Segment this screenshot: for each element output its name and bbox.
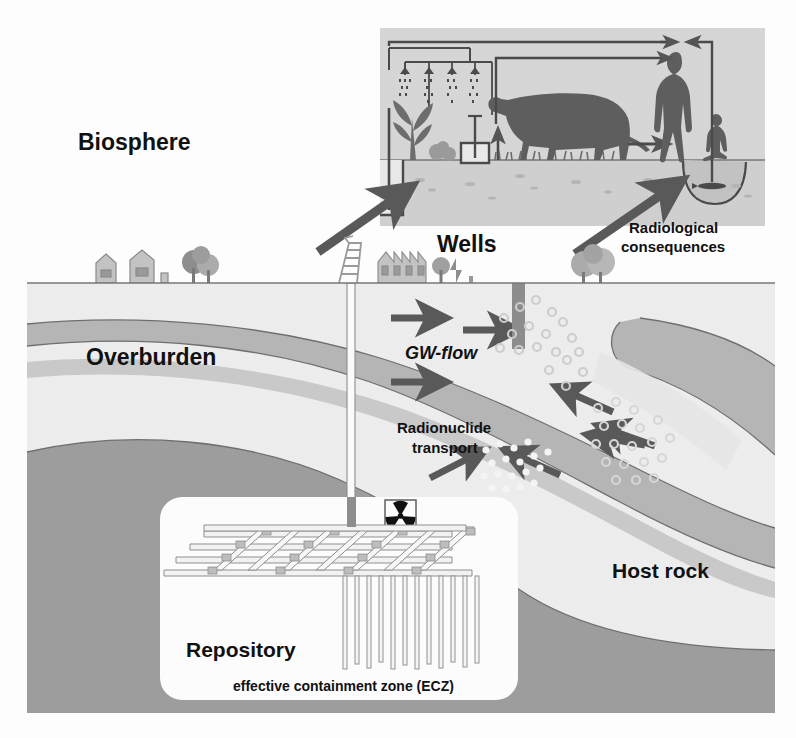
- radiological-label-line2: consequences: [621, 238, 725, 255]
- radionuclide-transport-label-line1: Radionuclide: [397, 419, 491, 436]
- repository-safety-concept-diagram: Biosphere: [0, 0, 796, 738]
- biosphere-panel: [375, 28, 765, 226]
- radiological-label-line1: Radiological: [629, 219, 718, 236]
- wells-label: Wells: [437, 231, 497, 257]
- shaft-into-repository: [347, 497, 356, 527]
- ecz-label: effective containment zone (ECZ): [233, 678, 454, 694]
- overburden-label: Overburden: [86, 344, 216, 370]
- repository-label: Repository: [186, 638, 296, 661]
- repository-box: Repository effective containment zone (E…: [160, 497, 518, 700]
- fish-icon: [698, 183, 726, 189]
- host-rock-label: Host rock: [612, 559, 709, 582]
- radionuclide-transport-label-line2: transport: [412, 439, 478, 456]
- biosphere-label: Biosphere: [78, 129, 190, 155]
- diagram-canvas: Biosphere: [0, 0, 796, 738]
- shaft: [347, 283, 355, 526]
- gw-flow-label: GW-flow: [405, 343, 478, 363]
- factory-icon: [378, 252, 426, 283]
